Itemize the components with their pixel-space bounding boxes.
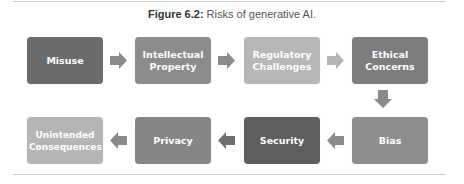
step-label: Regulatory Challenges (250, 49, 314, 73)
step-label: Misuse (46, 55, 83, 67)
step-misuse: Misuse (27, 37, 103, 84)
step-bias: Bias (352, 117, 428, 164)
step-label: Intellectual Property (141, 49, 205, 73)
arrow-right-icon (327, 52, 344, 69)
figure-caption: Figure 6.2: Risks of generative AI. (0, 8, 464, 20)
step-privacy: Privacy (135, 117, 211, 164)
step-regulatory-challenges: Regulatory Challenges (244, 37, 320, 84)
step-intellectual-property: Intellectual Property (135, 37, 211, 84)
arrow-left-icon (218, 132, 235, 149)
figure-label: Figure 6.2: (148, 8, 204, 20)
arrow-down-icon (374, 90, 392, 108)
step-security: Security (244, 117, 320, 164)
figure-title: Risks of generative AI. (207, 8, 316, 20)
step-label: Privacy (153, 135, 192, 147)
arrow-right-icon (110, 52, 127, 69)
step-label: Unintended Consequences (29, 129, 101, 153)
arrow-left-icon (110, 132, 127, 149)
arrow-left-icon (327, 132, 344, 149)
step-unintended-consequences: Unintended Consequences (27, 117, 103, 164)
step-ethical-concerns: Ethical Concerns (352, 37, 428, 84)
arrow-right-icon (218, 52, 235, 69)
bottom-rule (13, 174, 446, 175)
top-rule (13, 1, 446, 2)
step-label: Security (260, 135, 304, 147)
step-label: Bias (379, 135, 402, 147)
step-label: Ethical Concerns (360, 49, 420, 73)
